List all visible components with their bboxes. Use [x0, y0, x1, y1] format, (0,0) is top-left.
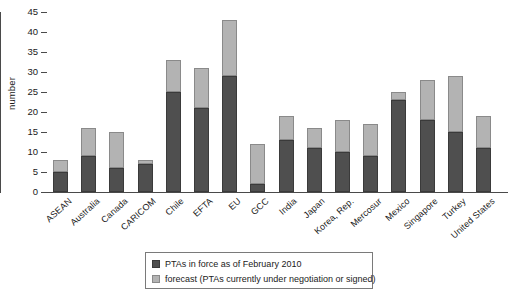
bar-segment-forecast — [391, 92, 406, 100]
chart-legend: PTAs in force as of February 2010 foreca… — [145, 252, 373, 289]
bar-segment-forecast — [476, 116, 491, 148]
bar-segment-forecast — [166, 60, 181, 92]
y-axis-tick-label-text: 45 — [16, 7, 38, 17]
bar-segment-in-force — [222, 76, 237, 192]
y-axis-tick-label: 40 — [14, 27, 38, 37]
x-axis-line — [47, 192, 508, 193]
bar-segment-forecast — [363, 124, 378, 156]
bar-segment-forecast — [53, 160, 68, 172]
bar-group — [166, 12, 181, 192]
y-axis-line — [0, 12, 1, 193]
bar-segment-in-force — [448, 132, 463, 192]
bar-segment-in-force — [109, 168, 124, 192]
bar-segment-in-force — [307, 148, 322, 192]
x-axis-tick-label-text: Japan — [302, 196, 327, 220]
y-axis-tick-label: 25 — [14, 87, 38, 97]
bar-segment-forecast — [335, 120, 350, 152]
bar-group — [420, 12, 435, 192]
y-axis-tick-label: 0 — [14, 187, 38, 197]
bar-segment-in-force — [138, 164, 153, 192]
x-axis-tick-label-text: India — [277, 196, 299, 217]
x-axis-tick-label-text: EFTA — [191, 196, 215, 219]
y-axis-tick-label-text: 25 — [16, 87, 38, 97]
bar-segment-in-force — [194, 108, 209, 192]
x-axis-tick-label-text: GCC — [249, 196, 271, 217]
bar-group — [194, 12, 209, 192]
bar-segment-forecast — [307, 128, 322, 148]
dark-swatch-icon — [152, 260, 160, 268]
legend-label-in-force: PTAs in force as of February 2010 — [165, 259, 301, 269]
y-axis-tick-label: 20 — [14, 107, 38, 117]
bar-segment-in-force — [335, 152, 350, 192]
y-axis-tick-label: 10 — [14, 147, 38, 157]
y-axis-tick-label: 35 — [14, 47, 38, 57]
bar-segment-in-force — [476, 148, 491, 192]
y-axis-tick-label: 45 — [14, 7, 38, 17]
y-axis-tick-label: 15 — [14, 127, 38, 137]
bar-group — [476, 12, 491, 192]
y-axis-tick-label-text: 30 — [16, 67, 38, 77]
bar-chart-figure: number 051015202530354045 ASEANAustralia… — [0, 0, 515, 297]
bar-segment-forecast — [109, 132, 124, 168]
bar-group — [109, 12, 124, 192]
legend-item-in-force: PTAs in force as of February 2010 — [152, 257, 366, 270]
y-axis-tick-label-text: 15 — [16, 127, 38, 137]
bar-group — [53, 12, 68, 192]
y-axis-tick-label: 30 — [14, 67, 38, 77]
legend-item-forecast: forecast (PTAs currently under negotiati… — [152, 272, 366, 285]
bar-segment-in-force — [250, 184, 265, 192]
bar-group — [448, 12, 463, 192]
bar-group — [138, 12, 153, 192]
bar-segment-forecast — [420, 80, 435, 120]
bar-segment-in-force — [81, 156, 96, 192]
light-swatch-icon — [152, 275, 160, 283]
y-axis-tick-label-text: 40 — [16, 27, 38, 37]
bar-group — [222, 12, 237, 192]
y-axis-tick-label-text: 10 — [16, 147, 38, 157]
plot-area — [47, 12, 507, 192]
bar-segment-forecast — [448, 76, 463, 132]
bar-segment-in-force — [166, 92, 181, 192]
bar-group — [307, 12, 322, 192]
legend-label-forecast: forecast (PTAs currently under negotiati… — [165, 274, 375, 284]
x-axis-tick-label-text: Australia — [68, 196, 101, 227]
y-axis-tick-label-text: 5 — [16, 167, 38, 177]
bar-segment-in-force — [279, 140, 294, 192]
bar-group — [250, 12, 265, 192]
x-axis-tick-label-text: EU — [226, 196, 242, 212]
bar-group — [363, 12, 378, 192]
bar-group — [279, 12, 294, 192]
bar-segment-forecast — [81, 128, 96, 156]
bar-group — [391, 12, 406, 192]
bar-segment-forecast — [250, 144, 265, 184]
y-axis-tick-label-text: 0 — [16, 187, 38, 197]
bar-segment-forecast — [138, 160, 153, 164]
bar-segment-in-force — [420, 120, 435, 192]
bar-segment-in-force — [363, 156, 378, 192]
bar-segment-in-force — [53, 172, 68, 192]
bar-group — [81, 12, 96, 192]
bar-segment-forecast — [222, 20, 237, 76]
bar-segment-forecast — [194, 68, 209, 108]
x-axis-tick-label-text: Chile — [164, 196, 186, 217]
bar-segment-in-force — [391, 100, 406, 192]
bar-segment-forecast — [279, 116, 294, 140]
bar-group — [335, 12, 350, 192]
y-axis-tick-label-text: 35 — [16, 47, 38, 57]
y-axis-tick-label: 5 — [14, 167, 38, 177]
y-axis-tick-label-text: 20 — [16, 107, 38, 117]
